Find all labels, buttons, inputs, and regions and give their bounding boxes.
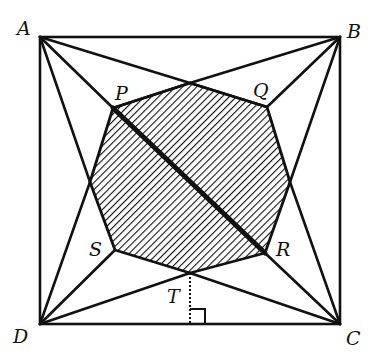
segment-c-t [190,273,340,324]
label-c: C [346,327,361,349]
label-d: D [12,325,28,347]
segment-d-left [40,182,90,324]
segment-d-s [40,250,115,324]
label-s: S [89,238,102,260]
label-q: Q [253,79,269,101]
label-t: T [167,285,181,307]
label-p: P [114,82,129,104]
right-angle-mark [190,309,205,324]
geometry-diagram: A B C D P Q R S T [0,0,387,357]
label-a: A [15,17,31,39]
label-r: R [275,238,290,260]
segment-b-right [290,37,340,182]
label-b: B [346,20,361,42]
segment-a-left [40,37,90,182]
segment-c-right [290,182,340,324]
